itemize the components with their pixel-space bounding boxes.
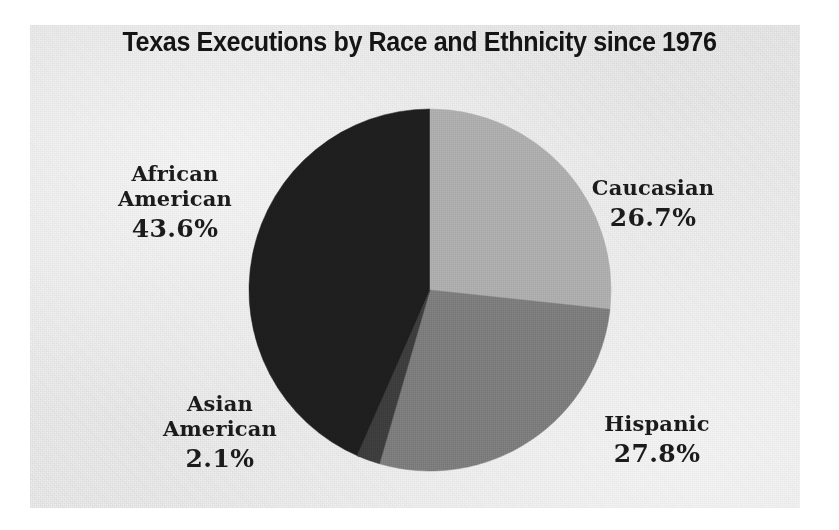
slice-value-asian-american: 2.1% [120,444,320,474]
slice-label-caucasian-line1: Caucasian [548,176,758,201]
slice-label-african-american-line1: African [80,162,270,187]
slice-label-asian-american-line2: American [120,417,320,442]
slice-label-african-american-line2: American [80,187,270,212]
slice-label-hispanic-line1: Hispanic [552,412,762,437]
slice-label-asian-american-line1: Asian [120,392,320,417]
slice-label-asian-american: Asian American 2.1% [120,392,320,473]
chart-title: Texas Executions by Race and Ethnicity s… [29,27,809,58]
slice-value-hispanic: 27.8% [552,439,762,469]
slice-label-hispanic: Hispanic 27.8% [552,412,762,468]
slice-value-caucasian: 26.7% [548,203,758,233]
slice-value-african-american: 43.6% [80,214,270,244]
slice-label-caucasian: Caucasian 26.7% [548,176,758,232]
slice-label-african-american: African American 43.6% [80,162,270,243]
chart-figure: Texas Executions by Race and Ethnicity s… [0,0,839,530]
